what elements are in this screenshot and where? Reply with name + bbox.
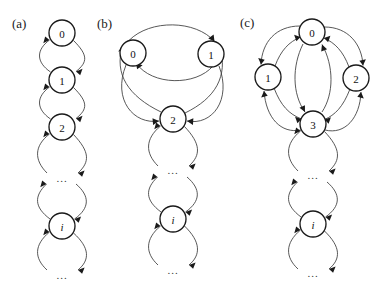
node-c-0-label: 0 (309, 27, 315, 39)
node-c-1[interactable]: 1 (255, 64, 281, 90)
node-b-i[interactable]: i (160, 206, 186, 232)
node-b-i-label: i (171, 214, 174, 226)
node-b-0-label: 0 (130, 48, 136, 60)
node-c-3[interactable]: 3 (300, 111, 326, 137)
node-a-i-label: i (60, 221, 63, 233)
panel-b-nodes: 0 1 2 ... i ... (120, 40, 224, 276)
node-b-2[interactable]: 2 (160, 106, 186, 132)
node-c-2-label: 2 (353, 73, 359, 85)
node-c-0[interactable]: 0 (299, 19, 325, 45)
node-c-i[interactable]: i (300, 211, 326, 237)
node-a-1-label: 1 (59, 75, 65, 87)
node-a-1[interactable]: 1 (49, 67, 75, 93)
ellipsis-b-lower: ... (167, 264, 178, 276)
node-b-1[interactable]: 1 (198, 41, 224, 67)
figure-container: (a) (b) (c) (0, 0, 391, 290)
node-a-2-label: 2 (59, 122, 65, 134)
node-a-i[interactable]: i (49, 213, 75, 239)
ellipsis-c-lower: ... (307, 267, 318, 279)
ellipsis-b-upper: ... (167, 164, 178, 176)
node-b-2-label: 2 (170, 114, 176, 126)
ellipsis-a-upper: ... (56, 172, 67, 184)
diagram-svg: 0 1 2 ... i ... (0, 0, 391, 290)
node-a-2[interactable]: 2 (49, 114, 75, 140)
node-a-0-label: 0 (59, 28, 65, 40)
panel-c-nodes: 0 1 2 3 ... i ... (255, 19, 369, 279)
node-c-i-label: i (311, 219, 314, 231)
node-a-0[interactable]: 0 (49, 20, 75, 46)
node-c-1-label: 1 (265, 72, 271, 84)
panel-a-nodes: 0 1 2 ... i ... (49, 20, 75, 281)
ellipsis-c-upper: ... (307, 169, 318, 181)
ellipsis-a-lower: ... (56, 269, 67, 281)
node-b-0[interactable]: 0 (120, 40, 146, 66)
node-b-1-label: 1 (208, 49, 214, 61)
node-c-3-label: 3 (310, 119, 316, 131)
node-c-2[interactable]: 2 (343, 65, 369, 91)
